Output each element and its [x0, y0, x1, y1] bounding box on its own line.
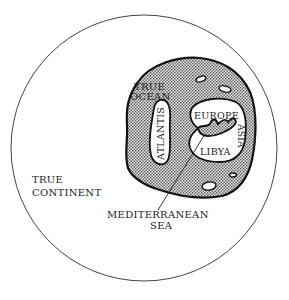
label-libya: LIBYA [200, 146, 231, 157]
label-mediterranean-1: MEDITERRANEAN [107, 209, 209, 220]
label-true-continent-2: CONTINENT [32, 187, 101, 198]
label-true-ocean-2: OCEAN [130, 91, 171, 102]
label-true-continent-1: TRUE [32, 174, 63, 185]
label-europe: EUROPE [194, 110, 239, 121]
label-mediterranean-2: SEA [150, 220, 173, 231]
label-asia: ASIA [236, 123, 246, 148]
world-diagram: TRUE OCEAN ATLANTIS EUROPE ASIA LIBYA TR… [0, 0, 289, 300]
islet [230, 173, 237, 177]
label-atlantis: ATLANTIS [155, 107, 166, 161]
